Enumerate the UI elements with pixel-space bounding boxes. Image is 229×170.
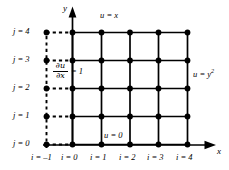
boundary-condition-right-base: u = y [193, 69, 211, 79]
boundary-condition-right-exponent: 2 [211, 67, 214, 74]
x-tick-label-i0: i = 0 [61, 153, 78, 162]
ghost-connectors [47, 33, 73, 145]
y-tick-label-j4: j = 4 [13, 27, 30, 36]
y-tick-label-j1: j = 1 [13, 111, 30, 120]
boundary-condition-bottom: u = 0 [104, 131, 123, 140]
figure-root: y x j = 4 j = 3 j = 2 j = 1 j = 0 i = –1… [0, 0, 229, 170]
boundary-condition-right: u = y2 [193, 70, 214, 79]
x-tick-label-i2: i = 2 [119, 153, 136, 162]
x-tick-label-i4: i = 4 [176, 153, 193, 162]
y-tick-label-j3: j = 3 [13, 55, 30, 64]
ghost-nodes [44, 30, 50, 148]
boundary-condition-left-value: = 1 [71, 66, 83, 76]
x-tick-label-i-minus-1: i = –1 [31, 153, 52, 162]
y-tick-label-j0: j = 0 [13, 139, 30, 148]
boundary-condition-left: ∂u ∂x = 1 [53, 62, 83, 80]
x-axis-label: x [217, 147, 221, 156]
x-tick-label-i1: i = 1 [90, 153, 107, 162]
x-tick-label-i3: i = 3 [147, 153, 164, 162]
partial-derivative-fraction: ∂u ∂x [53, 62, 68, 80]
fraction-denominator: ∂x [55, 72, 66, 81]
y-axis-label: y [63, 4, 67, 13]
y-tick-label-j2: j = 2 [13, 83, 30, 92]
fraction-numerator: ∂u [55, 62, 66, 71]
boundary-condition-top: u = x [100, 11, 118, 20]
grid-diagram-svg [0, 0, 229, 170]
